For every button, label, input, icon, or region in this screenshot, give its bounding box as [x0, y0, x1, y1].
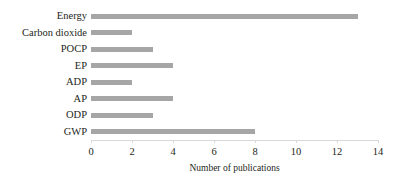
- bar: [91, 80, 132, 85]
- bar: [91, 14, 358, 19]
- bar: [91, 129, 255, 134]
- bar: [91, 113, 153, 118]
- bar-row: [91, 107, 378, 124]
- x-axis-tick-label: 10: [284, 145, 308, 158]
- category-axis: Energy Carbon dioxide POCP EP ADP AP ODP…: [0, 8, 87, 140]
- x-axis-tick: [296, 140, 297, 143]
- bar-row: [91, 74, 378, 91]
- x-axis-tick: [132, 140, 133, 143]
- x-axis-tick: [337, 140, 338, 143]
- x-axis-tick: [173, 140, 174, 143]
- bar-row: [91, 58, 378, 75]
- plot-area: [91, 8, 378, 140]
- x-axis-tick-label: 14: [366, 145, 390, 158]
- bar: [91, 30, 132, 35]
- bar: [91, 96, 173, 101]
- bar: [91, 47, 153, 52]
- category-label: Energy: [3, 8, 87, 25]
- bar-row: [91, 41, 378, 58]
- category-label: GWP: [3, 124, 87, 141]
- category-label: ADP: [3, 74, 87, 91]
- x-axis-tick-label: 4: [161, 145, 185, 158]
- x-axis-tick: [255, 140, 256, 143]
- x-axis-tick: [378, 140, 379, 143]
- x-axis-tick-label: 8: [243, 145, 267, 158]
- category-label: Carbon dioxide: [3, 25, 87, 42]
- x-axis-title: Number of publications: [91, 162, 378, 174]
- x-axis-line: [91, 140, 379, 141]
- category-label: AP: [3, 91, 87, 108]
- x-axis-tick: [214, 140, 215, 143]
- category-label: POCP: [3, 41, 87, 58]
- category-label: ODP: [3, 107, 87, 124]
- x-axis-tick-label: 12: [325, 145, 349, 158]
- bar-row: [91, 91, 378, 108]
- bar-chart: Energy Carbon dioxide POCP EP ADP AP ODP…: [0, 0, 397, 184]
- bar-row: [91, 25, 378, 42]
- bar: [91, 63, 173, 68]
- x-axis-tick: [91, 140, 92, 143]
- x-axis-tick-label: 0: [79, 145, 103, 158]
- x-axis-tick-label: 2: [120, 145, 144, 158]
- x-axis-tick-label: 6: [202, 145, 226, 158]
- category-label: EP: [3, 58, 87, 75]
- bar-row: [91, 8, 378, 25]
- bar-row: [91, 124, 378, 141]
